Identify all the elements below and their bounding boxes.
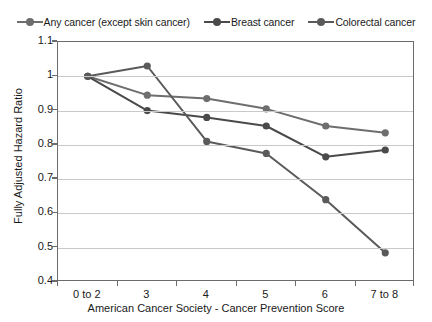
data-point [322,122,329,129]
x-axis-ticks: 0 to 234567 to 8 [57,281,414,303]
legend-marker-any-cancer [17,17,43,27]
legend-dot-icon [26,18,34,26]
series-line [88,66,386,253]
data-point [322,196,329,203]
x-tick-mark [117,281,118,286]
series-layer [58,42,415,282]
legend-label-any-cancer: Any cancer (except skin cancer) [44,16,190,28]
chart-legend: Any cancer (except skin cancer) Breast c… [0,13,432,31]
legend-marker-colorectal-cancer [308,17,334,27]
x-tick-label: 7 to 8 [349,288,419,300]
legend-dot-icon [317,18,325,26]
data-point [382,146,389,153]
legend-dot-icon [213,18,221,26]
legend-marker-breast-cancer [204,17,230,27]
data-point [382,129,389,136]
gridline [58,111,413,112]
x-tick-mark [295,281,296,286]
series-line [88,76,386,133]
data-point [263,122,270,129]
plot-area [57,41,414,281]
x-tick-mark [57,281,58,286]
chart-page: Any cancer (except skin cancer) Breast c… [0,0,432,322]
y-axis-title: Fully Adjusted Hazard Ratio [12,46,24,266]
data-point [203,114,210,121]
data-point [263,150,270,157]
gridline [58,179,413,180]
gridline [58,213,413,214]
data-point [203,95,210,102]
x-axis-title: American Cancer Society - Cancer Prevent… [0,302,432,314]
data-point [144,92,151,99]
gridline [58,248,413,249]
data-point [382,249,389,256]
legend-label-breast-cancer: Breast cancer [231,16,294,28]
y-axis-tickmarks [0,41,57,281]
x-tick-mark [236,281,237,286]
legend-item-any-cancer: Any cancer (except skin cancer) [17,16,190,28]
data-point [322,153,329,160]
x-tick-mark [355,281,356,286]
legend-item-colorectal-cancer: Colorectal cancer [308,16,415,28]
legend-label-colorectal-cancer: Colorectal cancer [335,16,415,28]
x-tick-mark [413,281,414,286]
x-tick-mark [176,281,177,286]
gridline [58,76,413,77]
legend-item-breast-cancer: Breast cancer [204,16,294,28]
data-point [144,62,151,69]
gridline [58,145,413,146]
